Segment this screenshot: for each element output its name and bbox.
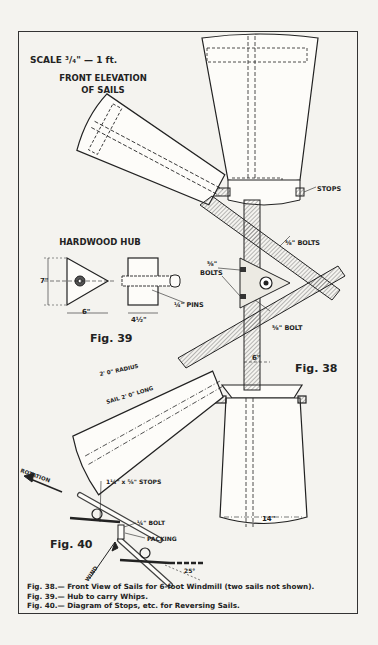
wind-label: WIND xyxy=(84,565,99,583)
tip-width-label: 14" xyxy=(262,515,275,523)
fig39-label: Fig. 39 xyxy=(90,332,132,345)
hub-title: HARDWOOD HUB xyxy=(59,237,141,247)
reversing-stops-drawing xyxy=(24,473,205,585)
pins-label: ¼" PINS xyxy=(174,301,204,309)
title-line1: FRONT ELEVATION xyxy=(59,73,147,83)
title-line2: OF SAILS xyxy=(81,85,124,95)
bolt-lower-label: ⅝" BOLT xyxy=(272,324,303,332)
caption-fig40: Fig. 40.— Diagram of Stops, etc. for Rev… xyxy=(27,601,314,611)
bolts-top-label: ⅝" BOLTS xyxy=(285,239,320,247)
scale-label: SCALE ³/₄" — 1 ft. xyxy=(30,55,117,65)
sail-top xyxy=(202,34,318,190)
bolt-label: ¼" BOLT xyxy=(137,519,166,526)
hub-width-dim: 6" xyxy=(82,308,91,316)
figure-caption: Fig. 38.— Front View of Sails for 6-foot… xyxy=(27,582,314,611)
fig38-label: Fig. 38 xyxy=(295,362,337,375)
angle-label: 25° xyxy=(184,567,195,574)
fig40-label: Fig. 40 xyxy=(50,538,93,551)
bolts-left-label-2: BOLTS xyxy=(200,269,223,277)
hub-depth-dim: 4½" xyxy=(131,316,147,324)
windmill-diagram: SCALE ³/₄" — 1 ft. FRONT ELEVATION OF SA… xyxy=(0,0,378,645)
caption-fig38: Fig. 38.— Front View of Sails for 6-foot… xyxy=(27,582,314,592)
sail-bottom xyxy=(212,385,307,527)
hardwood-hub-drawing xyxy=(44,258,185,313)
hub-height-dim: 7" xyxy=(40,277,49,285)
stops-size-label: 1¼" x ⅝" STOPS xyxy=(106,478,161,485)
stops-label: STOPS xyxy=(317,185,341,193)
hub-width-label: 6" xyxy=(252,354,261,362)
caption-fig39: Fig. 39.— Hub to carry Whips. xyxy=(27,592,314,602)
bolts-left-label-1: ⅝" xyxy=(207,260,217,268)
packing-label: PACKING xyxy=(147,535,177,542)
radius-label: 2' 0" RADIUS xyxy=(99,363,139,377)
